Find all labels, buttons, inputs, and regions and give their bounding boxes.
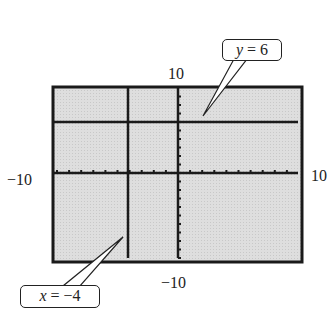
ymin-label: −10 <box>161 275 186 291</box>
ymax-label: 10 <box>168 66 184 82</box>
callout-eq: = −4 <box>47 287 81 304</box>
callout-x-equals-neg4: x = −4 <box>20 285 100 308</box>
xmin-label: −10 <box>7 172 32 188</box>
callout-var: x <box>39 287 46 304</box>
callout-y-equals-6: y = 6 <box>222 39 282 61</box>
callout-var: y <box>236 41 243 58</box>
xmax-label: 10 <box>311 168 327 184</box>
callout-eq: = 6 <box>243 41 268 58</box>
